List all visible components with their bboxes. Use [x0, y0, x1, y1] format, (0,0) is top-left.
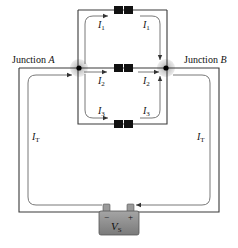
i1-right-label: I1 — [142, 19, 150, 32]
wires — [19, 10, 219, 212]
junction-b-label: Junction B — [184, 54, 227, 65]
battery-source: − + VS — [99, 204, 139, 235]
junction-a-label: Junction A — [12, 54, 55, 65]
it-right-label: IT — [196, 131, 205, 144]
current-flow-arrows — [28, 16, 210, 205]
battery-pos-sign: + — [128, 212, 133, 222]
i1-left-label: I1 — [97, 19, 105, 32]
parallel-circuit-diagram: − + VS Junction A Junction B I1 I1 I2 I2… — [0, 0, 238, 248]
i2-right-label: I2 — [142, 75, 150, 88]
battery-neg-sign: − — [104, 212, 109, 222]
i2-left-label: I2 — [97, 75, 105, 88]
it-left-label: IT — [31, 131, 40, 144]
junction-a-dot — [76, 65, 81, 70]
i3-right-label: I3 — [142, 105, 150, 118]
junction-b-dot — [163, 65, 168, 70]
i3-left-label: I3 — [97, 105, 105, 118]
